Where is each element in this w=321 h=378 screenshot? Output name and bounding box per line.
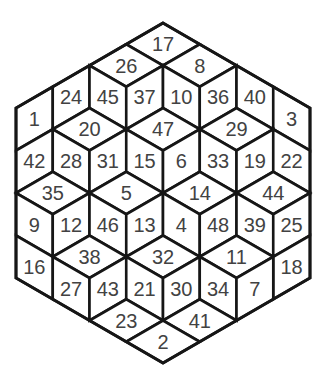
cell-number: 38 [78,246,100,268]
cell-number: 31 [97,150,119,172]
cell-number: 39 [244,214,266,236]
cell-number: 2 [157,331,168,353]
cell-number: 6 [176,150,187,172]
cell-number: 28 [60,150,82,172]
puzzle-figure: 1726812445371036403204729422831156331922… [0,0,321,378]
cell-number: 23 [115,310,137,332]
cell-number: 22 [281,150,303,172]
cell-number: 32 [152,246,174,268]
cell-number: 46 [97,214,119,236]
cell-number: 15 [134,150,156,172]
cell-number: 19 [244,150,266,172]
cell-number: 27 [60,278,82,300]
cell-number: 1 [29,108,40,130]
cell-number: 5 [121,182,132,204]
hexagon-rhombus-grid: 1726812445371036403204729422831156331922… [0,0,321,378]
cell-number: 9 [29,214,40,236]
cell-number: 3 [286,108,297,130]
cell-number: 43 [97,278,119,300]
cell-number: 34 [207,278,229,300]
cell-number: 11 [226,246,247,268]
cell-number: 45 [97,86,119,108]
cell-number: 16 [23,256,45,278]
cell-number: 35 [42,182,64,204]
cell-number: 36 [207,86,229,108]
cell-number: 4 [176,214,187,236]
cell-number: 29 [225,118,247,140]
cell-number: 37 [134,86,156,108]
cell-number: 21 [134,278,156,300]
cell-number: 12 [60,214,82,236]
cell-number: 25 [281,214,303,236]
cell-number: 10 [170,86,192,108]
cell-number: 41 [189,310,211,332]
cell-number: 17 [152,33,174,55]
cell-number: 48 [207,214,229,236]
cell-number: 47 [152,118,174,140]
cell-number: 13 [134,214,156,236]
cell-number: 8 [194,55,205,77]
cell-number: 18 [281,256,303,278]
cell-number: 33 [207,150,229,172]
cell-number: 44 [262,182,284,204]
cell-number: 24 [60,86,82,108]
cell-number: 14 [189,182,211,204]
cell-number: 30 [170,278,192,300]
cell-number: 20 [78,118,100,140]
cell-number: 26 [115,55,137,77]
cell-number: 7 [249,278,260,300]
cell-number: 40 [244,86,266,108]
cell-number: 42 [23,150,45,172]
